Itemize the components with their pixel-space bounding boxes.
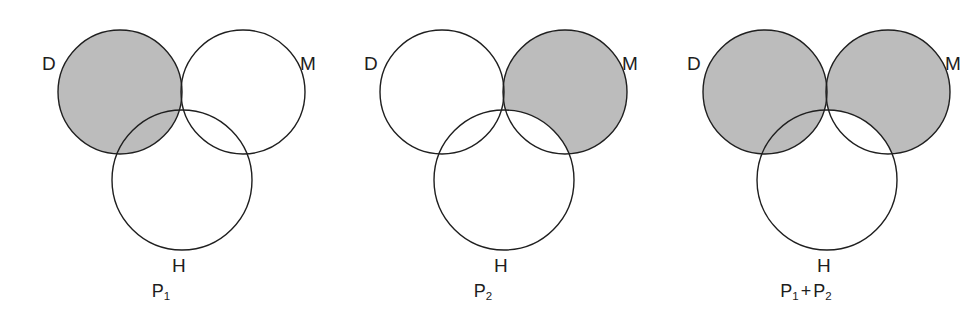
set-label-m: M: [622, 54, 638, 73]
set-label-m: M: [300, 54, 316, 73]
panel-caption-p1-plus-p2: P1+P2: [645, 282, 967, 300]
venn-svg-p1-plus-p2: [645, 0, 967, 324]
panel-caption-p2: P2: [322, 282, 644, 300]
set-label-h: H: [172, 256, 186, 275]
shaded-region-m-minus-h: [322, 0, 644, 324]
venn-svg-p2: [322, 0, 644, 324]
caption-base-2: P: [813, 281, 825, 301]
caption-subscript: 1: [792, 290, 798, 302]
caption-base: P: [152, 281, 164, 301]
set-label-h: H: [494, 256, 508, 275]
caption-operator: +: [799, 281, 814, 301]
shaded-region-union: [645, 0, 967, 324]
set-label-d: D: [42, 54, 56, 73]
venn-diagram-figure: D M H P1 D M H: [0, 0, 967, 324]
caption-base: P: [780, 281, 792, 301]
venn-panel-p1: D M H P1: [0, 0, 322, 324]
venn-svg-p1: [0, 0, 322, 324]
caption-subscript: 2: [486, 290, 492, 302]
panel-caption-p1: P1: [0, 282, 322, 300]
caption-subscript-2: 2: [825, 290, 831, 302]
caption-subscript: 1: [164, 290, 170, 302]
set-label-m: M: [945, 54, 961, 73]
venn-panel-p2: D M H P2: [322, 0, 644, 324]
set-label-d: D: [687, 54, 701, 73]
caption-base: P: [474, 281, 486, 301]
set-label-d: D: [364, 54, 378, 73]
set-label-h: H: [817, 256, 831, 275]
venn-panel-p1-plus-p2: D M H P1+P2: [645, 0, 967, 324]
shaded-region-m-minus-h: [645, 0, 967, 324]
shaded-region-d-minus-m: [0, 0, 322, 324]
